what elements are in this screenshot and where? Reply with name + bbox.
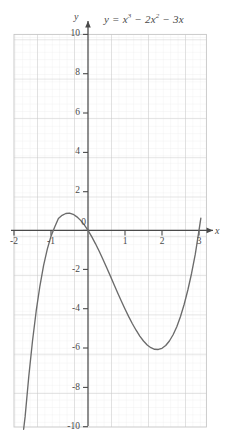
y-axis-arrowhead: [85, 21, 91, 28]
equation-term3: 3x: [173, 13, 184, 25]
y-tick-label: 10: [58, 28, 80, 38]
equation-minus-1: −: [134, 13, 142, 25]
y-tick-label: 0: [64, 217, 86, 227]
x-tick-label: 3: [192, 236, 206, 246]
cartesian-plot: [0, 0, 238, 438]
equation-equals: =: [112, 13, 120, 25]
x-tick-label: -2: [7, 236, 21, 246]
graph-figure: y = x3 − 2x2 − 3x y x -10-8-6-4-20246810…: [0, 0, 238, 438]
equation-term1-exponent: 3: [128, 12, 132, 20]
y-tick-label: 4: [58, 146, 80, 156]
x-axis-arrowhead: [207, 228, 214, 234]
equation-label: y = x3 − 2x2 − 3x: [104, 12, 184, 25]
y-axis-label: y: [74, 11, 78, 22]
x-tick-label: 1: [118, 236, 132, 246]
x-tick-label: -1: [44, 236, 58, 246]
equation-lhs: y: [104, 13, 109, 25]
y-tick-label: -2: [58, 264, 80, 274]
y-tick-label: -10: [58, 421, 80, 431]
y-tick-label: -8: [58, 382, 80, 392]
x-tick-label: 2: [155, 236, 169, 246]
y-tick-label: -6: [58, 342, 80, 352]
y-tick-label: 2: [58, 185, 80, 195]
equation-term2-exponent: 2: [156, 12, 160, 20]
y-tick-label: -4: [58, 303, 80, 313]
y-tick-label: 8: [58, 67, 80, 77]
equation-minus-2: −: [162, 13, 170, 25]
x-axis-label: x: [215, 225, 219, 236]
y-tick-label: 6: [58, 107, 80, 117]
